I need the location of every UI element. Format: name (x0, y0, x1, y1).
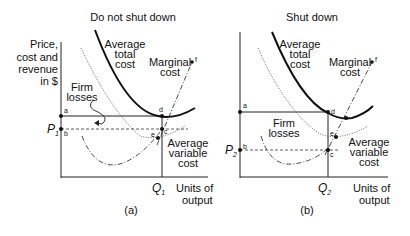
label-a: a (64, 107, 68, 114)
atc-label-3: cost (115, 58, 135, 70)
label-e: e (330, 130, 334, 137)
label-b: b (64, 130, 68, 137)
q1-label: Q1 (152, 181, 165, 196)
point-d (160, 114, 164, 118)
point-e (156, 136, 160, 140)
label-c: c (164, 128, 168, 135)
y-axis-label-line4: in $ (40, 75, 58, 87)
point-d (326, 110, 330, 114)
label-b: b (243, 143, 247, 150)
point-e (334, 135, 338, 139)
firm-losses-label-2: losses (66, 91, 98, 103)
panel-a: Do not shut down Price, cost and revenue… (16, 11, 214, 216)
point-a (59, 114, 63, 118)
losses-pointer (90, 100, 105, 124)
label-a: a (243, 102, 247, 109)
point-b (59, 127, 63, 131)
mc-label-2: cost (340, 66, 360, 78)
panel-a-caption: (a) (124, 204, 137, 216)
label-e: e (151, 131, 155, 138)
panel-a-title: Do not shut down (90, 11, 176, 23)
panel-b: Shut down a b c d e f P2 Q2 Average tota… (225, 11, 391, 216)
atc-label-3: cost (290, 58, 310, 70)
q2-label: Q2 (318, 181, 331, 196)
label-c: c (330, 151, 334, 158)
avc-curve (82, 132, 160, 165)
mc-label-2: cost (160, 66, 180, 78)
label-d: d (159, 106, 163, 113)
p1-label: P1 (47, 122, 59, 137)
y-axis-label-line1: Price, (30, 38, 58, 50)
label-f: f (375, 56, 377, 63)
avc-label-3: cost (178, 157, 198, 169)
panel-b-caption: (b) (300, 204, 313, 216)
firm-losses-label-2: losses (268, 127, 300, 139)
label-d: d (331, 108, 335, 115)
p2-label: P2 (225, 143, 237, 158)
x-axis-label-1: Units of (176, 182, 214, 194)
avc-label-3: cost (359, 156, 379, 168)
panel-b-title: Shut down (286, 11, 338, 23)
point-a (238, 110, 242, 114)
point-b (238, 148, 242, 152)
x-axis-label-2: output (359, 194, 390, 206)
shutdown-diagram: Do not shut down Price, cost and revenue… (0, 0, 410, 236)
label-f: f (195, 56, 197, 63)
point-min-atc (344, 116, 348, 120)
y-axis-label-line2: cost and (16, 51, 58, 63)
x-axis-label-1: Units of (353, 182, 391, 194)
arrow-head-icon (94, 120, 99, 126)
y-axis-label-line3: revenue (18, 63, 58, 75)
x-axis-label-2: output (182, 194, 213, 206)
